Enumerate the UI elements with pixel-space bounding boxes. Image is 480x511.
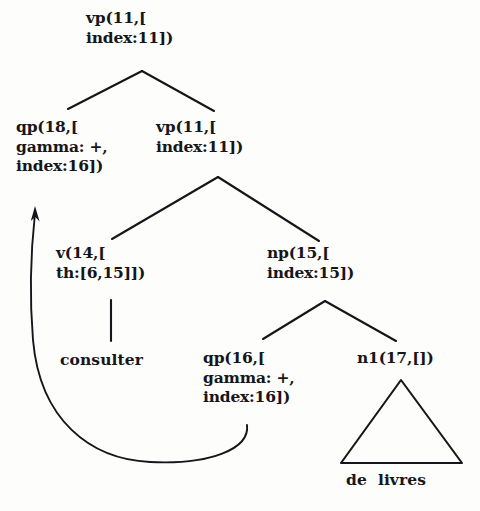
edge-np15-to-n117 <box>325 301 396 341</box>
tree-node-qp-16: qp(16,[gamma: +,index:16]) <box>203 348 294 407</box>
node-label-line: index:16]) <box>203 387 294 407</box>
terminal-consulter: consulter <box>60 350 143 370</box>
tree-node-n1-17: n1(17,[]) <box>357 348 434 368</box>
edge-np15-to-qp16 <box>263 301 325 339</box>
node-label-line: th:[6,15]]) <box>56 263 145 283</box>
tree-node-qp-18: qp(18,[gamma: +,index:16]) <box>16 117 107 176</box>
node-label-line: qp(18,[ <box>16 117 107 137</box>
node-label-line: gamma: +, <box>16 137 107 157</box>
node-label-line: index:16]) <box>16 156 107 176</box>
node-label-line: np(15,[ <box>267 243 354 263</box>
node-label-line: v(14,[ <box>56 243 145 263</box>
edge-root-to-vp11 <box>142 71 214 111</box>
node-label-line: n1(17,[]) <box>357 348 434 368</box>
node-label-line: index:11]) <box>86 28 173 48</box>
n1-subtree-triangle <box>341 380 462 463</box>
edge-root-to-qp18 <box>68 71 142 109</box>
parse-tree-diagram: vp(11,[index:11])qp(18,[gamma: +,index:1… <box>0 0 480 511</box>
terminal-de-livres: de livres <box>346 470 426 490</box>
coreference-arrowhead-icon <box>31 206 40 222</box>
node-label-line: vp(11,[ <box>156 117 243 137</box>
edge-vp11-to-np15 <box>218 177 319 241</box>
edge-vp11-to-v14 <box>112 177 218 239</box>
edge-group <box>68 71 396 341</box>
node-label-line: index:11]) <box>156 137 243 157</box>
node-label-line: index:15]) <box>267 263 354 283</box>
node-label-line: qp(16,[ <box>203 348 294 368</box>
tree-node-vp-11-inner: vp(11,[index:11]) <box>156 117 243 156</box>
node-label-line: gamma: +, <box>203 368 294 388</box>
node-label-line: vp(11,[ <box>86 8 173 28</box>
tree-node-vp-root: vp(11,[index:11]) <box>86 8 173 47</box>
tree-node-np-15: np(15,[index:15]) <box>267 243 354 282</box>
tree-node-v-14: v(14,[th:[6,15]]) <box>56 243 145 282</box>
